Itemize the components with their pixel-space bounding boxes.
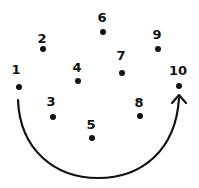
point-dot bbox=[176, 83, 182, 89]
point-dot bbox=[137, 113, 143, 119]
point-label: 3 bbox=[46, 94, 55, 109]
point-dot bbox=[40, 46, 46, 52]
point-label: 4 bbox=[72, 60, 81, 75]
point-dot bbox=[50, 114, 56, 120]
point-dot bbox=[16, 84, 22, 90]
connecting-arc bbox=[18, 98, 179, 178]
dot-diagram: 12345678910 bbox=[0, 0, 199, 188]
point-label: 10 bbox=[169, 63, 187, 78]
point-dot bbox=[155, 46, 161, 52]
point-dot bbox=[100, 29, 106, 35]
point-label: 2 bbox=[37, 31, 46, 46]
point-label: 6 bbox=[97, 10, 106, 25]
point-label: 8 bbox=[134, 95, 143, 110]
point-label: 5 bbox=[86, 117, 95, 132]
point-label: 7 bbox=[116, 48, 125, 63]
point-label: 9 bbox=[152, 27, 161, 42]
point-label: 1 bbox=[11, 62, 20, 77]
point-dot bbox=[119, 70, 125, 76]
point-dot bbox=[75, 78, 81, 84]
point-dot bbox=[89, 135, 95, 141]
